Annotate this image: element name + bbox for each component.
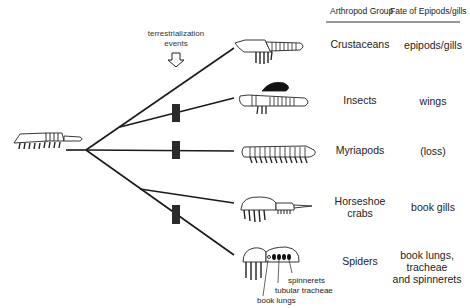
branch-spiders — [86, 150, 234, 255]
terrestrialization-markers — [172, 104, 180, 224]
fate-myriapods: (loss) — [400, 145, 466, 157]
crustacean-icon — [235, 40, 303, 64]
group-crustaceans: Crustaceans — [326, 38, 394, 50]
fate-crustaceans: epipods/gills — [400, 39, 466, 51]
fate-horseshoe-crabs: book gills — [400, 201, 466, 213]
marker-insects — [172, 104, 180, 122]
marker-spiders — [172, 205, 180, 224]
terrestrialization-label: terrestrialization events — [140, 29, 212, 49]
branch-crustaceans — [86, 48, 234, 150]
branch-myriapods — [86, 150, 234, 151]
header-fate: Fate of Epipods/gills — [390, 6, 467, 16]
label-spinnerets: spinnerets — [288, 276, 325, 285]
fate-spiders: book lungs, tracheae and spinnerets — [384, 249, 470, 285]
marker-myriapods — [172, 141, 180, 159]
branch-horseshoe-crabs — [140, 189, 234, 203]
tree-branches — [66, 48, 234, 255]
label-book-lungs: book lungs — [257, 296, 296, 305]
label-tubular-tracheae: tubular tracheae — [275, 286, 333, 295]
header-arthropod-group: Arthropod Group — [330, 6, 393, 16]
myriapod-icon — [242, 146, 315, 163]
group-insects: Insects — [326, 94, 394, 106]
insect-icon — [240, 82, 309, 114]
arrow-down-icon — [168, 53, 184, 67]
group-horseshoe-crabs: Horseshoe crabs — [326, 195, 394, 219]
group-myriapods: Myriapods — [326, 144, 394, 156]
horseshoe-crab-icon — [241, 197, 312, 222]
fate-insects: wings — [400, 95, 466, 107]
ancestor-arthropod-icon — [14, 133, 82, 149]
